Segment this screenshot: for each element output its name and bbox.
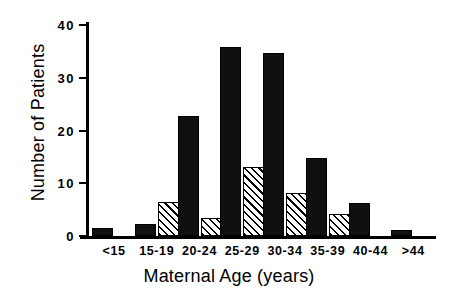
- bar-solid: [349, 203, 370, 236]
- bar-group: [92, 25, 136, 236]
- x-axis-tick-label: >44: [383, 244, 443, 258]
- x-axis-title: Maternal Age (years): [0, 266, 458, 287]
- bar-hatched: [329, 214, 350, 236]
- bar-solid: [306, 158, 327, 236]
- bar-solid: [263, 53, 284, 236]
- y-axis-title: Number of Patients: [28, 13, 49, 233]
- bar-solid: [391, 230, 412, 236]
- bar-group: [178, 25, 222, 236]
- y-axis-tick-label: 0: [66, 229, 75, 244]
- bar-series-container: [88, 25, 436, 236]
- bar-group: [349, 25, 393, 236]
- bar-group: [306, 25, 350, 236]
- y-axis-tick-mark: [79, 235, 87, 237]
- y-axis-tick-mark: [79, 77, 87, 79]
- bar-group: [263, 25, 307, 236]
- y-axis-tick-mark: [79, 24, 87, 26]
- y-axis-tick-label: 40: [58, 18, 75, 33]
- y-axis-tick-mark: [79, 182, 87, 184]
- bar-chart-figure: Number of Patients 010203040 <1515-1920-…: [0, 0, 458, 297]
- plot-area: 010203040 <1515-1920-2425-2930-3435-3940…: [88, 25, 436, 236]
- y-axis-tick-label: 10: [58, 176, 75, 191]
- y-axis-tick-mark: [79, 130, 87, 132]
- bar-solid: [135, 224, 156, 236]
- bar-solid: [178, 116, 199, 236]
- bar-group: [391, 25, 435, 236]
- bar-hatched: [158, 202, 179, 236]
- y-axis-tick-label: 20: [58, 123, 75, 138]
- bar-group: [220, 25, 264, 236]
- bar-hatched: [243, 167, 264, 236]
- bar-hatched: [286, 193, 307, 236]
- bar-group: [135, 25, 179, 236]
- bar-solid: [220, 47, 241, 236]
- bar-solid: [92, 228, 113, 236]
- x-axis-line: [80, 236, 436, 239]
- y-axis-tick-label: 30: [58, 70, 75, 85]
- bar-hatched: [201, 218, 222, 236]
